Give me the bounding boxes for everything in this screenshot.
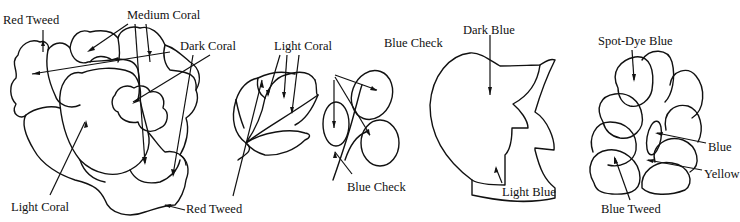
label-spot-dye-blue: Spot-Dye Blue: [598, 35, 673, 48]
leaf-drawing: [430, 35, 555, 201]
berries-drawing: [323, 65, 399, 180]
label-light-blue: Light Blue: [502, 186, 556, 199]
label-blue-check-top: Blue Check: [384, 37, 443, 50]
label-red-tweed-bottom: Red Tweed: [186, 203, 242, 216]
label-light-coral-rose: Light Coral: [11, 201, 69, 214]
label-blue-check-bottom: Blue Check: [347, 181, 406, 194]
label-light-coral-bud: Light Coral: [274, 40, 332, 53]
label-blue: Blue: [708, 141, 732, 154]
label-red-tweed-top: Red Tweed: [3, 14, 59, 27]
bud-drawing: [233, 55, 318, 196]
label-dark-coral: Dark Coral: [180, 40, 236, 53]
label-yellow: Yellow: [704, 168, 740, 181]
grape-cluster-drawing: [590, 50, 706, 200]
label-medium-coral: Medium Coral: [127, 9, 200, 22]
label-dark-blue: Dark Blue: [463, 24, 515, 37]
label-blue-tweed: Blue Tweed: [601, 203, 661, 216]
